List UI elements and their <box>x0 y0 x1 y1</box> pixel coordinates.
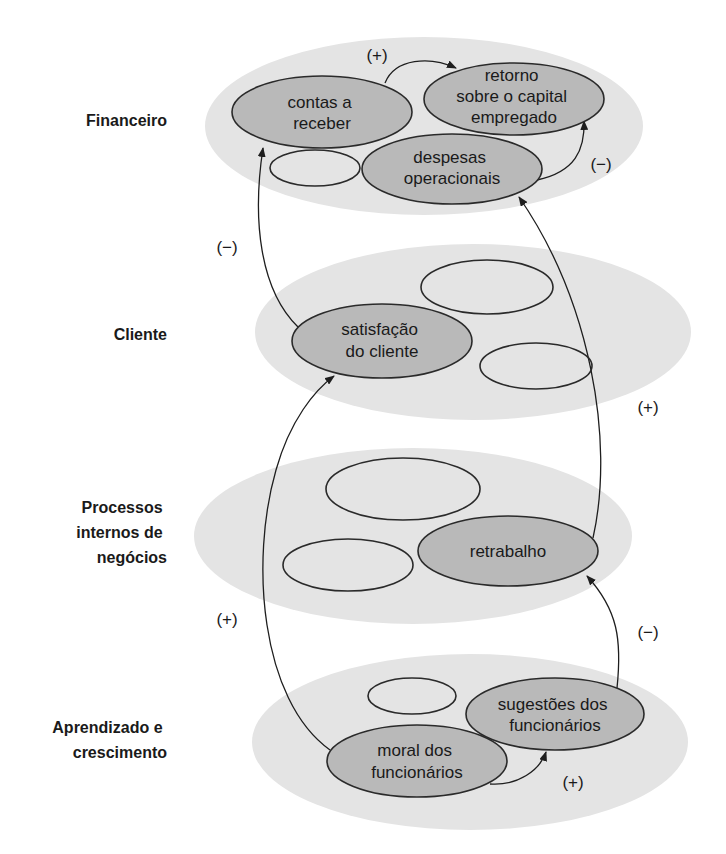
perspective-label-processos: Processos internos de negócios <box>76 499 167 566</box>
node-retrabalho-text: retrabalho <box>470 542 547 561</box>
perspective-label-cliente: Cliente <box>114 326 167 343</box>
sign-retrabalho-despesas: (+) <box>637 398 658 417</box>
sign-despesas-retorno: (−) <box>590 155 611 174</box>
sign-contas-retorno: (+) <box>366 46 387 65</box>
sign-sugestoes-retrabalho: (−) <box>637 623 658 642</box>
node-sugestoes-funcionarios <box>466 678 644 750</box>
sign-moral-sugestoes: (+) <box>562 773 583 792</box>
node-moral-funcionarios <box>327 725 507 797</box>
sign-satisfacao-contas: (−) <box>216 238 237 257</box>
perspective-label-aprendizado: Aprendizado e crescimento <box>52 719 167 761</box>
node-contas-a-receber <box>232 76 412 148</box>
sign-moral-satisfacao: (+) <box>216 610 237 629</box>
node-satisfacao-cliente <box>292 304 472 378</box>
perspective-label-financeiro: Financeiro <box>86 112 167 129</box>
strategy-map-diagram: Financeiro Cliente Processos internos de… <box>0 0 726 854</box>
